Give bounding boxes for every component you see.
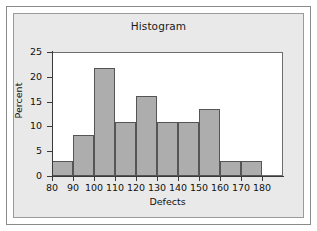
histogram-bar [241,161,262,176]
x-axis-title: Defects [52,196,283,207]
histogram-bar [94,68,115,176]
x-axis-tick [241,176,242,181]
y-axis-tick [47,52,52,53]
histogram-bar [157,122,178,176]
histogram-bar [136,96,157,176]
y-axis-tick-label: 0 [2,171,42,181]
x-axis-tick [220,176,221,181]
bars-layer [52,52,283,176]
histogram-bar [178,122,199,176]
histogram-bar [52,161,73,176]
x-axis-tick [115,176,116,181]
histogram-bar [199,109,220,176]
y-axis-tick [47,126,52,127]
y-axis-line [52,51,53,177]
y-axis-tick-label: 5 [2,146,42,156]
x-axis-tick [178,176,179,181]
y-axis-tick [47,102,52,103]
x-axis-tick [73,176,74,181]
x-axis-line [52,176,284,177]
x-axis-tick [262,176,263,181]
y-axis-tick-label: 25 [2,47,42,57]
y-axis-tick [47,77,52,78]
x-axis-tick [157,176,158,181]
x-axis-tick [52,176,53,181]
histogram-figure: Histogram 0510152025 8090100110120130140… [0,0,317,231]
x-axis-tick [199,176,200,181]
y-axis-title: Percent [13,71,24,131]
x-axis-tick-label: 180 [247,183,277,193]
histogram-bar [220,161,241,176]
histogram-bar [73,135,94,176]
y-axis-tick [47,151,52,152]
x-axis-tick [136,176,137,181]
plot-area [52,52,283,176]
x-axis-tick [94,176,95,181]
histogram-bar [115,122,136,176]
chart-title: Histogram [14,20,303,32]
